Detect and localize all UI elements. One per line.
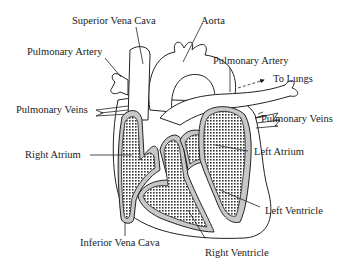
- label-right-ventricle: Right Ventricle: [205, 248, 269, 259]
- pulmonary-artery-left-branch: [111, 74, 128, 95]
- label-aorta: Aorta: [201, 16, 225, 27]
- label-pulmonary-veins-right: Pulmonary Veins: [261, 114, 333, 125]
- label-inferior-vena-cava: Inferior Vena Cava: [80, 238, 160, 249]
- heart-diagram: Superior Vena Cava Aorta Pulmonary Arter…: [0, 0, 352, 269]
- label-left-ventricle: Left Ventricle: [265, 206, 323, 217]
- label-left-atrium: Left Atrium: [254, 147, 304, 158]
- label-right-atrium: Right Atrium: [25, 150, 81, 161]
- label-pulmonary-artery-right: Pulmonary Artery: [213, 56, 289, 67]
- label-pulmonary-artery-left: Pulmonary Artery: [27, 47, 103, 58]
- label-superior-vena-cava: Superior Vena Cava: [72, 16, 156, 27]
- label-to-lungs: To Lungs: [273, 74, 313, 85]
- to-lungs-arrow: [238, 80, 264, 88]
- superior-vena-cava: [128, 47, 150, 120]
- heart-illustration: [0, 0, 352, 269]
- label-pulmonary-veins-left: Pulmonary Veins: [16, 105, 88, 116]
